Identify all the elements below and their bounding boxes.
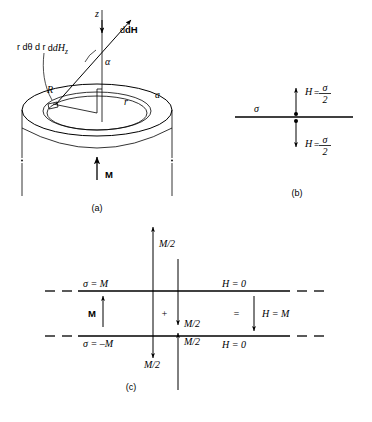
H-up-tail-dot bbox=[294, 112, 298, 116]
sigma-bottom-label: σ = –M bbox=[83, 338, 114, 349]
H-below-denominator: 2 bbox=[323, 146, 328, 157]
M-label-panel-a: M bbox=[105, 169, 113, 180]
dH-label: ddH bbox=[120, 24, 138, 35]
physics-figure: z ddHz ddH α r dθ d r R a r M (a) bbox=[0, 0, 372, 422]
H-down-tail-dot bbox=[294, 119, 298, 123]
H-equals-M-label: H = M bbox=[261, 308, 290, 319]
M-label-panel-c: M bbox=[88, 308, 96, 319]
dH-label-text: dH bbox=[125, 24, 138, 35]
M-half-inner-lower-label: M/2 bbox=[183, 336, 200, 347]
M-half-inner-upper-label: M/2 bbox=[183, 318, 200, 329]
r-label: r bbox=[124, 96, 128, 107]
panel-a: z ddHz ddH α r dθ d r R a r M (a) bbox=[17, 8, 173, 213]
caption-c: (c) bbox=[126, 382, 137, 392]
dHz-subscript: z bbox=[64, 47, 68, 56]
H-below-numerator: σ bbox=[323, 134, 329, 145]
H-above-numerator: σ bbox=[323, 82, 329, 93]
equals-operator: = bbox=[233, 308, 240, 319]
a-label: a bbox=[155, 89, 160, 100]
M-half-lower-outside-label: M/2 bbox=[143, 359, 160, 370]
dHz-label: ddHz bbox=[48, 42, 68, 56]
caption-a: (a) bbox=[92, 203, 103, 213]
figure-canvas: z ddHz ddH α r dθ d r R a r M (a) bbox=[0, 0, 372, 422]
right-break-dot bbox=[171, 160, 173, 162]
H-above-equals: = bbox=[314, 87, 319, 97]
panel-c: σ = M σ = –M M + = H = 0 H = 0 H = M M/2… bbox=[45, 227, 324, 392]
H-below-symbol: H bbox=[304, 138, 313, 149]
H-bottom-zero-label: H = 0 bbox=[221, 339, 246, 350]
panel-b: σ H = σ 2 H = σ 2 (b) bbox=[235, 82, 353, 198]
caption-b: (b) bbox=[292, 188, 303, 198]
left-break-dot bbox=[21, 160, 23, 162]
R-label: R bbox=[46, 84, 53, 95]
alpha-label: α bbox=[105, 56, 111, 67]
H-above-denominator: 2 bbox=[323, 94, 328, 105]
M-half-upper-outside-label: M/2 bbox=[158, 238, 175, 249]
H-below-expression: H = σ 2 bbox=[304, 134, 331, 157]
plus-operator: + bbox=[161, 308, 168, 319]
H-top-zero-label: H = 0 bbox=[221, 278, 246, 289]
sigma-top-label: σ = M bbox=[83, 278, 109, 289]
H-above-expression: H = σ 2 bbox=[304, 82, 331, 105]
H-below-equals: = bbox=[314, 139, 319, 149]
dHz-label-text: dH bbox=[53, 42, 66, 53]
area-element-label: r dθ d r bbox=[17, 42, 46, 52]
H-above-symbol: H bbox=[304, 86, 313, 97]
cylinder-front-curve bbox=[22, 128, 172, 148]
z-axis-label: z bbox=[94, 8, 99, 19]
sigma-label-panel-b: σ bbox=[254, 103, 260, 114]
alpha-angle-arc bbox=[85, 50, 96, 62]
radius-r-line bbox=[53, 104, 97, 113]
